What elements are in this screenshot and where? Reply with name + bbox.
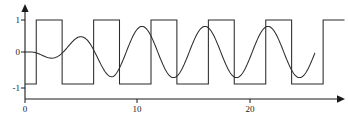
x-axis-label-0: 0 <box>15 105 35 114</box>
x-axis-label-20: 20 <box>240 105 260 114</box>
x-axis-arrow-icon <box>337 95 345 103</box>
y-axis-arrow-icon <box>21 4 28 12</box>
y-axis-label-top: 1 <box>6 16 20 25</box>
y-axis-label-bottom: -1 <box>2 84 20 93</box>
y-axis-label-mid: 0 <box>6 48 20 57</box>
x-axis-label-10: 10 <box>127 105 147 114</box>
square-wave-curve <box>25 20 345 84</box>
axis-group <box>21 4 345 103</box>
growing-sine-curve <box>25 26 315 77</box>
chart-figure: 1 0 -1 0 10 20 <box>0 0 348 119</box>
plot-canvas <box>0 0 348 119</box>
